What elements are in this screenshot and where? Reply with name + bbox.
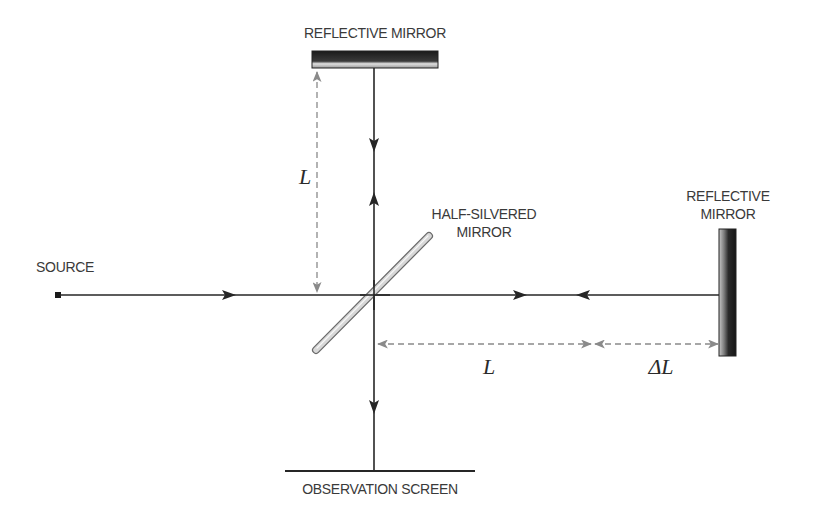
right-mirror-label-line2: MIRROR <box>701 206 756 222</box>
half-silvered-mirror <box>316 236 429 350</box>
interferometer-diagram: REFLECTIVE MIRROR REFLECTIVE MIRROR HALF… <box>0 0 813 524</box>
delta-length-label: ΔL <box>647 354 673 379</box>
top-mirror-label: REFLECTIVE MIRROR <box>304 25 446 41</box>
horizontal-length-label: L <box>482 354 495 379</box>
half-silvered-mirror-label-line1: HALF-SILVERED <box>432 206 537 222</box>
top-reflective-mirror <box>312 51 438 68</box>
half-silvered-mirror-label-line2: MIRROR <box>457 224 512 240</box>
vertical-length-label: L <box>298 164 311 189</box>
right-reflective-mirror <box>719 229 736 356</box>
observation-screen-label: OBSERVATION SCREEN <box>302 481 458 497</box>
right-mirror-label-line1: REFLECTIVE <box>686 188 769 204</box>
source-label: SOURCE <box>36 259 94 275</box>
